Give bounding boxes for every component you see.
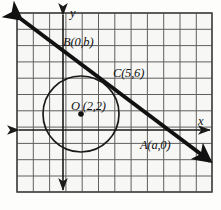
x-axis-label: x [198, 115, 203, 128]
point-label-a: A(a,0) [140, 139, 170, 152]
y-axis-label: y [70, 7, 75, 20]
coordinate-geometry-figure: B(0,b) C(5,6) O (2,2) A(a,0) x y [0, 0, 221, 210]
figure-canvas [0, 0, 221, 210]
point-label-o: O (2,2) [71, 100, 106, 113]
point-label-b: B(0,b) [63, 36, 93, 49]
point-label-c: C(5,6) [113, 67, 144, 80]
